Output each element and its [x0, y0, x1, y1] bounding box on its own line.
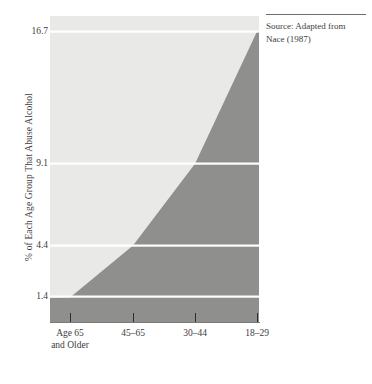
- plot-area: [50, 16, 259, 322]
- gridline-4-4: [50, 245, 259, 247]
- gridline-9-1: [50, 163, 259, 165]
- x-tick-label-18-29: 18–29: [227, 327, 287, 339]
- y-tick-label-16-7: 16.7: [18, 26, 48, 36]
- gridline-1-4: [50, 296, 259, 298]
- chart-figure: % of Each Age Group That Abuse Alcohol 1…: [0, 0, 372, 384]
- source-note: Source: Adapted from Nace (1987): [266, 14, 366, 45]
- x-tick-label-45-65: 45–65: [103, 327, 163, 339]
- source-note-text: Source: Adapted from Nace (1987): [266, 20, 366, 45]
- x-tick-mark-age-65: [70, 313, 71, 322]
- y-tick-label-4-4: 4.4: [18, 240, 48, 250]
- x-axis-tick-labels: Age 65 and Older 45–65 30–44 18–29: [0, 327, 372, 367]
- x-tick-mark-18-29: [257, 313, 258, 322]
- x-tick-label-age-65: Age 65 and Older: [38, 327, 102, 351]
- source-note-rule: [266, 14, 366, 15]
- gridline-16-7: [50, 31, 259, 33]
- area-chart-svg: [50, 16, 259, 322]
- x-tick-mark-30-44: [195, 313, 196, 322]
- y-tick-label-1-4: 1.4: [18, 291, 48, 301]
- x-tick-label-30-44: 30–44: [165, 327, 225, 339]
- x-tick-mark-45-65: [133, 313, 134, 322]
- y-tick-label-9-1: 9.1: [18, 158, 48, 168]
- x-axis-line: [50, 322, 260, 323]
